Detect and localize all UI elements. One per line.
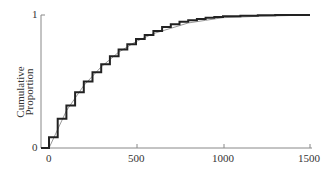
y-axis-label-line2: Proportion	[23, 68, 35, 115]
axes	[41, 15, 312, 148]
chart-canvas	[0, 0, 334, 175]
y-tick-0: 0	[32, 141, 38, 153]
x-tick-500: 500	[128, 152, 145, 164]
y-tick-1: 1	[32, 8, 38, 20]
x-tick-0: 0	[46, 152, 52, 164]
step-line	[41, 15, 310, 148]
x-tick-1500: 1500	[298, 152, 320, 164]
x-tick-1000: 1000	[212, 152, 234, 164]
